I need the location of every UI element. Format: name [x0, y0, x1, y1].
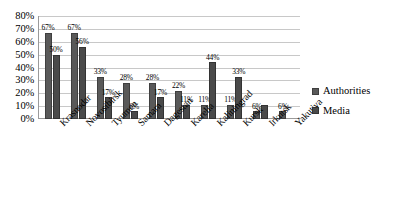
- legend-swatch-icon: [312, 88, 319, 95]
- bar-value-label: 50%: [49, 46, 62, 54]
- y-axis-tick-label: 60%: [15, 37, 34, 48]
- bar-chart: 0%10%20%30%40%50%60%70%80% 67%50%67%56%3…: [0, 0, 408, 203]
- y-axis-tick-label: 70%: [15, 24, 34, 35]
- x-axis-tick-label: Tyumen: [110, 121, 117, 128]
- bar-value-label: 33%: [232, 68, 245, 76]
- bar-slot: 67%: [45, 16, 52, 119]
- x-axis-tick-label: Irkutsk: [267, 121, 274, 128]
- y-axis-tick-label: 0%: [20, 114, 34, 125]
- x-axis-tick-label: Krasnodar: [58, 121, 65, 128]
- bar-group: 67%50%: [39, 16, 65, 119]
- y-axis-tick-label: 40%: [15, 62, 34, 73]
- x-axis-tick-label: Kaliningrad: [215, 121, 222, 128]
- bar-group: 6%: [248, 16, 274, 119]
- x-axis-tick-label: Yakutiya: [293, 121, 300, 128]
- y-axis-tick-label: 50%: [15, 49, 34, 60]
- y-axis-tick-label: 10%: [15, 101, 34, 112]
- chart-legend: AuthoritiesMedia: [312, 86, 370, 116]
- legend-item[interactable]: Media: [312, 106, 370, 117]
- y-axis-tick-label: 80%: [15, 11, 34, 22]
- x-axis-tick-label: Samara: [136, 121, 143, 128]
- x-axis-tick-label: Novosibirsk: [84, 121, 91, 128]
- bar-slot: [261, 16, 268, 119]
- bar-value-label: 17%: [154, 89, 167, 97]
- y-axis-tick-label: 20%: [15, 88, 34, 99]
- legend-item[interactable]: Authorities: [312, 86, 370, 97]
- legend-item-label: Media: [323, 106, 350, 117]
- x-axis-tick-label: Kursk: [241, 121, 248, 128]
- bar-value-label: 56%: [76, 38, 89, 46]
- y-axis: 0%10%20%30%40%50%60%70%80%: [0, 16, 34, 119]
- legend-item-label: Authorities: [323, 86, 370, 97]
- bar-slot: 50%: [53, 16, 60, 119]
- y-axis-tick-label: 30%: [15, 75, 34, 86]
- bar: [53, 55, 60, 119]
- legend-swatch-icon: [312, 107, 319, 114]
- x-axis-tick-label: Karelia: [189, 121, 196, 128]
- x-axis-tick-label: Dagestan: [162, 121, 169, 128]
- x-axis: KrasnodarNovosibirskTyumenSamaraDagestan…: [39, 119, 300, 203]
- bar-value-label: 44%: [206, 54, 219, 62]
